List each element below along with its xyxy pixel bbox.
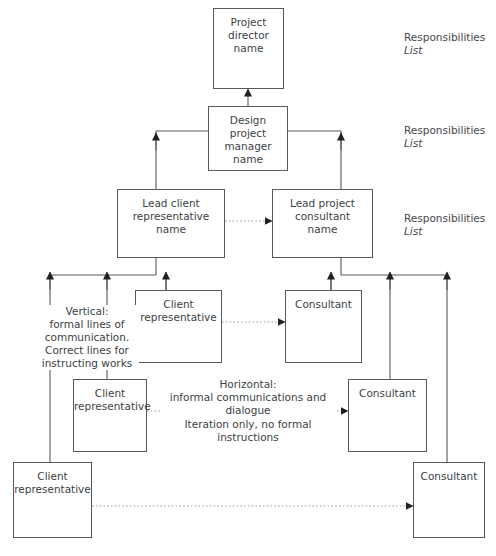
- responsibilities-label-2: Responsibilities List: [404, 124, 492, 150]
- node-consultant-mid[interactable]: Consultant: [285, 290, 362, 363]
- node-lead-project-consultant[interactable]: Lead projectconsultantname: [272, 189, 373, 258]
- responsibilities-title: Responsibilities: [404, 212, 492, 225]
- diagram-canvas: Projectdirectorname Designprojectmanager…: [0, 0, 496, 556]
- node-client-representative-mid[interactable]: Clientrepresentative: [135, 290, 222, 363]
- node-lead-client-representative[interactable]: Lead clientrepresentativename: [117, 189, 225, 258]
- node-project-director[interactable]: Projectdirectorname: [213, 8, 284, 89]
- responsibilities-sub: List: [404, 44, 492, 57]
- annotation-horizontal: Horizontal:informal communications anddi…: [160, 378, 336, 417]
- node-client-representative-bottom[interactable]: Clientrepresentative: [13, 462, 92, 538]
- responsibilities-title: Responsibilities: [404, 31, 492, 44]
- responsibilities-label-3: Responsibilities List: [404, 212, 492, 238]
- responsibilities-title: Responsibilities: [404, 124, 492, 137]
- annotation-vertical: Vertical:formal lines ofcommunication.Co…: [35, 305, 139, 370]
- responsibilities-label-1: Responsibilities List: [404, 31, 492, 57]
- node-client-representative-lower[interactable]: Clientrepresentative: [73, 379, 147, 452]
- responsibilities-sub: List: [404, 137, 492, 150]
- annotation-horizontal-sub: Iteration only, no formal instructions: [160, 418, 336, 444]
- node-consultant-lower[interactable]: Consultant: [348, 379, 427, 452]
- node-consultant-bottom[interactable]: Consultant: [413, 462, 485, 538]
- responsibilities-sub: List: [404, 225, 492, 238]
- node-design-project-manager[interactable]: Designprojectmanagername: [208, 106, 288, 171]
